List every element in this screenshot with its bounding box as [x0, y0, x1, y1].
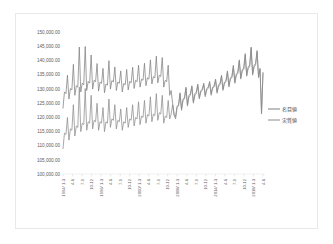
x-axis-tick-label: 2000/ 1-3 [137, 178, 142, 196]
y-axis-tick-label: 135,000.00 [37, 72, 60, 77]
x-axis-tick-label: 10-12 [89, 178, 94, 189]
x-axis-tick-label: 10-12 [242, 178, 247, 189]
x-axis-tick-label: 7-9 [156, 178, 161, 185]
x-axis-tick-label: 7-9 [118, 178, 123, 185]
x-axis-tick-label: 1996/ 1-3 [99, 178, 104, 196]
x-axis-tick-label: 2008/ 1-3 [175, 178, 180, 196]
y-axis: 150,000.00145,000.00140,000.00135,000.00… [37, 30, 60, 177]
y-axis-tick-label: 105,000.00 [37, 158, 60, 163]
x-axis-tick-label: 4-6 [108, 178, 113, 185]
legend-label-2: 実質値 [282, 117, 297, 124]
x-axis-tick-label: 10-12 [165, 178, 170, 189]
x-axis-tick-label: 4-6 [70, 178, 75, 185]
y-axis-tick-label: 125,000.00 [37, 101, 60, 106]
y-axis-tick-label: 120,000.00 [37, 115, 60, 120]
x-axis-tick-label: 7-9 [80, 178, 85, 185]
x-axis-tick-label: 10-12 [203, 178, 208, 189]
y-axis-tick-label: 140,000.00 [37, 58, 60, 63]
x-axis-tick-label: 4-6 [184, 178, 189, 185]
x-axis-tick-label: 7-9 [194, 178, 199, 185]
x-axis-tick-label: 2014/ 1-3 [213, 178, 218, 196]
chart-plot-area: 150,000.00145,000.00140,000.00135,000.00… [16, 14, 317, 228]
y-axis-tick-label: 100,000.00 [37, 172, 60, 177]
chart-legend: 名目値実質値 [268, 106, 297, 124]
line-chart: 150,000.00145,000.00140,000.00135,000.00… [16, 14, 319, 230]
y-axis-tick-label: 130,000.00 [37, 87, 60, 92]
series-lines [63, 46, 263, 148]
y-axis-tick-label: 115,000.00 [37, 129, 60, 134]
chart-container: 150,000.00145,000.00140,000.00135,000.00… [15, 13, 318, 229]
x-axis-tick-label: 4-6 [146, 178, 151, 185]
series-line-2 [63, 48, 263, 148]
x-axis-tick-label: 10-12 [127, 178, 132, 189]
x-axis-tick-label: 4-6 [223, 178, 228, 185]
y-axis-tick-label: 145,000.00 [37, 44, 60, 49]
legend-label-1: 名目値 [282, 106, 297, 113]
x-axis-tick-label: 2018/ 1-3 [251, 178, 256, 196]
x-axis-tick-label: 4-6 [261, 178, 266, 185]
y-axis-tick-label: 150,000.00 [37, 30, 60, 35]
x-axis-tick-label: 7-9 [232, 178, 237, 185]
x-axis-tick-label: 1994/ 1-3 [61, 178, 66, 196]
x-axis: 1994/ 1-34-67-910-121996/ 1-34-67-910-12… [61, 174, 266, 197]
y-axis-tick-label: 110,000.00 [37, 143, 60, 148]
